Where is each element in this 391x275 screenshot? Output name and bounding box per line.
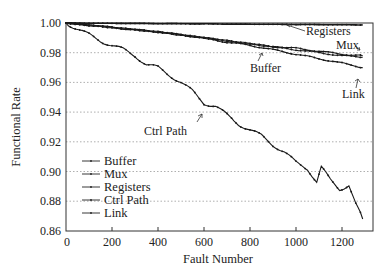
data-point-marker — [341, 62, 343, 64]
data-point-marker — [355, 66, 357, 68]
data-point-marker — [162, 32, 164, 34]
legend-label: Registers — [104, 180, 151, 194]
data-point-marker — [116, 27, 118, 29]
data-point-marker — [332, 181, 334, 183]
data-point-marker — [309, 55, 311, 57]
data-point-marker — [199, 23, 201, 25]
data-point-marker — [171, 32, 173, 34]
data-point-marker — [116, 45, 118, 47]
data-point-marker — [102, 25, 104, 27]
data-point-marker — [212, 39, 214, 41]
data-point-marker — [107, 26, 109, 28]
data-point-marker — [111, 27, 113, 29]
legend-label: Mux — [104, 167, 128, 181]
data-point-marker — [245, 23, 247, 25]
data-point-marker — [300, 164, 302, 166]
data-point-marker — [281, 24, 283, 26]
data-point-marker — [277, 23, 279, 25]
x-tick-label: 200 — [103, 235, 121, 249]
data-point-marker — [277, 49, 279, 51]
data-point-marker — [180, 34, 182, 36]
data-point-marker — [281, 150, 283, 152]
data-point-marker — [180, 23, 182, 25]
data-point-marker — [332, 61, 334, 63]
annotation-buffer: Buffer — [250, 61, 281, 75]
data-point-marker — [212, 23, 214, 25]
data-point-marker — [360, 67, 362, 69]
data-point-marker — [314, 50, 316, 52]
legend-label: Ctrl Path — [104, 193, 150, 207]
data-point-marker — [194, 36, 196, 38]
data-point-marker — [199, 36, 201, 38]
data-point-marker — [346, 187, 348, 189]
data-point-marker — [295, 49, 297, 51]
data-point-marker — [341, 54, 343, 56]
data-point-marker — [84, 24, 86, 26]
data-point-marker — [79, 29, 81, 31]
data-point-marker — [231, 117, 233, 119]
data-point-marker — [291, 47, 293, 49]
data-point-marker — [346, 54, 348, 56]
data-point-marker — [157, 23, 159, 25]
data-point-marker — [268, 23, 270, 25]
data-point-marker — [189, 87, 191, 89]
data-point-marker — [231, 40, 233, 42]
data-point-marker — [148, 23, 150, 25]
data-point-marker — [295, 54, 297, 56]
x-tick-label: 1000 — [284, 235, 308, 249]
x-tick-label: 1200 — [330, 235, 354, 249]
data-point-marker — [97, 22, 99, 24]
data-point-marker — [337, 61, 339, 63]
data-point-marker — [217, 106, 219, 108]
data-point-marker — [102, 22, 104, 24]
data-point-marker — [194, 92, 196, 94]
data-point-marker — [185, 84, 187, 86]
data-point-marker — [295, 24, 297, 26]
legend-label: Link — [104, 206, 128, 220]
data-point-marker — [291, 49, 293, 51]
data-point-marker — [185, 23, 187, 25]
data-point-marker — [249, 129, 251, 131]
data-point-marker — [350, 64, 352, 66]
data-point-marker — [148, 64, 150, 66]
data-point-marker — [286, 52, 288, 54]
data-point-marker — [272, 46, 274, 48]
data-point-marker — [300, 50, 302, 52]
data-point-marker — [350, 191, 352, 193]
data-point-marker — [327, 51, 329, 53]
data-point-marker — [171, 23, 173, 25]
data-point-marker — [254, 46, 256, 48]
data-point-marker — [84, 22, 86, 24]
data-point-marker — [143, 63, 145, 65]
data-point-marker — [203, 104, 205, 106]
data-point-marker — [111, 22, 113, 24]
y-tick-label: 0.94 — [40, 105, 61, 119]
data-point-marker — [360, 24, 362, 26]
data-point-marker — [318, 51, 320, 53]
data-point-marker — [245, 43, 247, 45]
data-point-marker — [74, 23, 76, 25]
data-point-marker — [272, 48, 274, 50]
legend-item-buffer: Buffer — [82, 154, 137, 168]
data-point-marker — [189, 36, 191, 38]
data-point-marker — [222, 109, 224, 111]
x-tick-label: 0 — [64, 235, 70, 249]
data-point-marker — [337, 54, 339, 56]
data-point-marker — [337, 187, 339, 189]
legend-label: Buffer — [104, 154, 137, 168]
data-point-marker — [111, 45, 113, 47]
data-point-marker — [318, 58, 320, 60]
y-axis-labels: 1.00 0.98 0.96 0.94 0.92 0.90 0.88 0.86 — [40, 16, 61, 238]
data-point-marker — [203, 36, 205, 38]
data-point-marker — [281, 51, 283, 53]
data-point-marker — [254, 130, 256, 132]
data-point-marker — [235, 23, 237, 25]
data-point-marker — [314, 179, 316, 181]
y-axis-title: Functional Rate — [9, 87, 23, 167]
data-point-marker — [258, 23, 260, 25]
data-point-marker — [231, 23, 233, 25]
data-point-marker — [93, 22, 95, 24]
legend-item-ctrl-path: Ctrl Path — [82, 193, 150, 207]
data-point-marker — [268, 48, 270, 50]
data-point-marker — [134, 23, 136, 25]
